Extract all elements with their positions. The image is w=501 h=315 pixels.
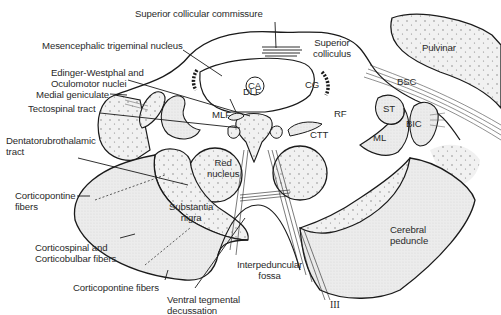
label-cg: CG [305,80,319,91]
label-superior-collicular-commissure: Superior collicular commissure [135,9,263,20]
label-substantia-nigra: Substantia nigra [169,202,213,223]
oculomotor-nucleus [236,114,272,163]
label-interpeduncular-fossa: Interpeduncular fossa [237,260,302,281]
label-tectospinal-tract: Tectospinal tract [28,104,96,115]
label-st: ST [383,104,395,115]
label-bsc: BSC [397,77,416,88]
label-edinger-westphal-oculomotor: Edinger-Westphal and Oculomotor nuclei [51,68,144,89]
label-corticopontine-fibers-upper: Corticopontine fibers [15,191,75,212]
label-mesencephalic-trigeminal-nucleus: Mesencephalic trigeminal nucleus [42,41,183,52]
label-mlf: MLF [212,110,231,121]
label-rf: RF [334,109,347,120]
red-nucleus-right [273,146,327,200]
label-corticopontine-fibers-lower: Corticopontine fibers [73,283,159,294]
label-superior-colliculus: Superior colliculus [313,38,351,59]
label-ventral-tegmental-decussation: Ventral tegmental decussation [167,295,240,315]
label-ml: ML [373,133,386,144]
label-cerebral-peduncle: Cerebral peduncle [390,225,428,246]
label-bic: BIC [406,119,422,130]
midbrain-diagram: Superior collicular commissure Mesenceph… [0,0,501,315]
label-dentatorubrothalamic-tract: Dentatorubrothalamic tract [6,136,96,157]
label-ctt: CTT [310,130,328,141]
label-corticospinal-corticobulbar: Corticospinal and Corticobulbar fibers [35,243,116,264]
label-ca: CA [248,81,261,92]
label-pulvinar: Pulvinar [422,43,456,54]
label-red-nucleus: Red nucleus [207,158,239,179]
superior-collicular-commissure [262,47,302,56]
label-medial-geniculate: Medial geniculate [36,90,109,101]
label-oculomotor-nerve: III [330,300,340,311]
pulvinar-shape [391,14,501,108]
